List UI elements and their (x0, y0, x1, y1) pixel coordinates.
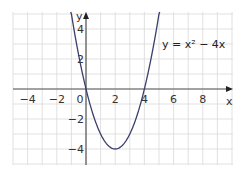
x-tick-label: 0 (77, 93, 84, 106)
x-axis-label: x (226, 95, 233, 108)
x-tick-label: −2 (49, 93, 65, 106)
y-axis-label: y (76, 10, 83, 23)
function-graph: −4−202468−4−224 y = x² − 4x x y (0, 0, 247, 173)
equation-label: y = x² − 4x (162, 38, 226, 51)
x-tick-label: −4 (19, 93, 35, 106)
axes (13, 12, 233, 165)
y-tick-label: −4 (68, 143, 84, 156)
x-tick-label: 2 (112, 93, 119, 106)
y-tick-label: 4 (77, 23, 84, 36)
x-tick-label: 8 (199, 93, 206, 106)
y-tick-label: −2 (68, 113, 84, 126)
x-tick-label: 6 (170, 93, 177, 106)
